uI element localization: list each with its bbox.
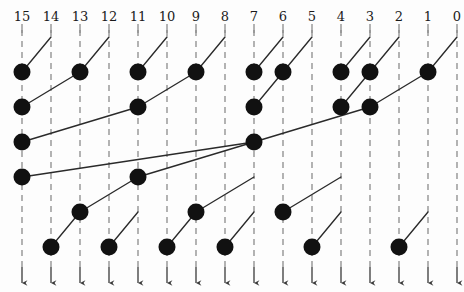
prefix-node bbox=[217, 239, 234, 256]
prefix-node bbox=[188, 64, 205, 81]
column-label-15: 15 bbox=[14, 10, 31, 23]
prefix-node bbox=[362, 64, 379, 81]
prefix-node bbox=[304, 239, 321, 256]
prefix-node bbox=[130, 169, 147, 186]
prefix-node bbox=[333, 64, 350, 81]
diagram-canvas: 1514131211109876543210 bbox=[0, 0, 464, 292]
column-label-8: 8 bbox=[221, 10, 229, 23]
prefix-node bbox=[362, 99, 379, 116]
prefix-edge bbox=[138, 142, 254, 177]
prefix-node bbox=[14, 64, 31, 81]
prefix-network-svg bbox=[0, 0, 464, 292]
prefix-node bbox=[275, 64, 292, 81]
operator-nodes-layer bbox=[14, 64, 437, 256]
prefix-node bbox=[43, 239, 60, 256]
prefix-node bbox=[420, 64, 437, 81]
prefix-node bbox=[159, 239, 176, 256]
prefix-node bbox=[130, 64, 147, 81]
column-label-9: 9 bbox=[192, 10, 200, 23]
column-label-12: 12 bbox=[101, 10, 118, 23]
column-label-3: 3 bbox=[366, 10, 374, 23]
prefix-node bbox=[14, 99, 31, 116]
column-label-2: 2 bbox=[395, 10, 403, 23]
column-label-11: 11 bbox=[130, 10, 147, 23]
column-label-1: 1 bbox=[424, 10, 432, 23]
column-label-13: 13 bbox=[72, 10, 89, 23]
prefix-node bbox=[246, 64, 263, 81]
column-label-5: 5 bbox=[308, 10, 316, 23]
prefix-node bbox=[188, 204, 205, 221]
column-label-6: 6 bbox=[279, 10, 287, 23]
prefix-node bbox=[72, 64, 89, 81]
prefix-node bbox=[275, 204, 292, 221]
prefix-node bbox=[246, 99, 263, 116]
prefix-node bbox=[14, 134, 31, 151]
column-label-4: 4 bbox=[337, 10, 345, 23]
column-label-7: 7 bbox=[250, 10, 258, 23]
column-label-0: 0 bbox=[453, 10, 461, 23]
prefix-node bbox=[246, 134, 263, 151]
prefix-node bbox=[101, 239, 118, 256]
prefix-node bbox=[333, 99, 350, 116]
prefix-node bbox=[14, 169, 31, 186]
prefix-node bbox=[391, 239, 408, 256]
column-label-14: 14 bbox=[43, 10, 60, 23]
column-label-10: 10 bbox=[159, 10, 176, 23]
prefix-node bbox=[130, 99, 147, 116]
prefix-node bbox=[72, 204, 89, 221]
